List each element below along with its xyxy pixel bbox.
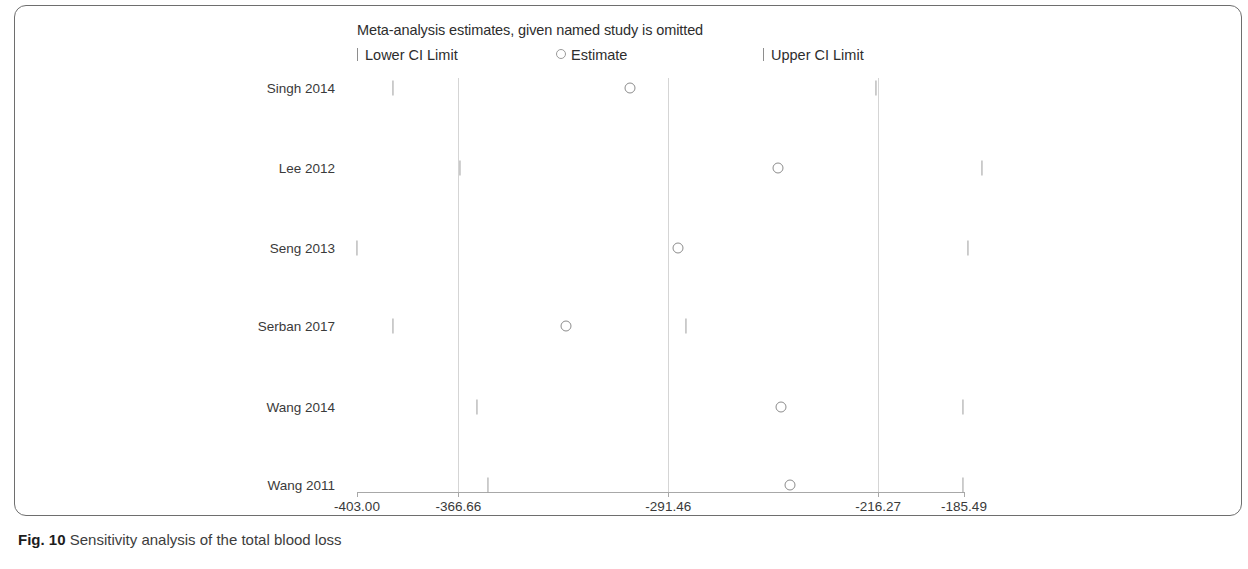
upper-ci-marker [982,161,983,176]
plot-title: Meta-analysis estimates, given named stu… [357,22,703,38]
lower-ci-marker [393,319,394,334]
estimate-marker [561,321,572,332]
lower-ci-marker [488,478,489,493]
x-axis-tick [878,492,879,497]
lower-ci-marker [356,241,357,256]
x-axis-tick-label: -291.46 [645,499,691,514]
study-label: Lee 2012 [205,161,335,176]
estimate-marker [784,480,795,491]
gridline [458,78,459,492]
upper-ci-marker [876,81,877,96]
sensitivity-analysis-plot: Meta-analysis estimates, given named stu… [0,0,1248,520]
estimate-circle-icon [556,49,566,59]
estimate-marker [773,163,784,174]
upper-ci-marker [686,319,687,334]
lower-ci-marker [476,400,477,415]
x-axis-tick [357,492,358,497]
study-label: Wang 2011 [205,478,335,493]
figure-caption-text: Sensitivity analysis of the total blood … [70,531,342,548]
study-label: Wang 2014 [205,400,335,415]
legend-item-upper-ci: Upper CI Limit [763,46,864,63]
estimate-marker [625,83,636,94]
lower-ci-marker [460,161,461,176]
x-axis-tick [964,492,965,497]
upper-ci-tick-icon [763,48,764,61]
x-axis-tick-label: -185.49 [941,499,987,514]
figure-caption: Fig. 10 Sensitivity analysis of the tota… [18,531,342,548]
x-axis-tick [458,492,459,497]
estimate-marker [776,402,787,413]
figure-caption-label: Fig. 10 [18,531,66,548]
estimate-marker [672,243,683,254]
upper-ci-marker [962,400,963,415]
lower-ci-marker [393,81,394,96]
study-label: Seng 2013 [205,241,335,256]
x-axis-tick-label: -366.66 [436,499,482,514]
legend-item-estimate: Estimate [556,46,627,63]
study-label: Singh 2014 [205,81,335,96]
study-label: Serban 2017 [205,319,335,334]
upper-ci-marker [962,478,963,493]
legend-label-upper-ci: Upper CI Limit [771,47,864,63]
legend-item-lower-ci: Lower CI Limit [357,46,458,63]
x-axis-tick-label: -403.00 [334,499,380,514]
upper-ci-marker [968,241,969,256]
gridline [878,78,879,492]
lower-ci-tick-icon [357,48,358,61]
legend-label-estimate: Estimate [571,47,627,63]
x-axis-tick [668,492,669,497]
legend-label-lower-ci: Lower CI Limit [365,47,458,63]
x-axis-line [357,492,964,493]
gridline [668,78,669,492]
x-axis-tick-label: -216.27 [855,499,901,514]
